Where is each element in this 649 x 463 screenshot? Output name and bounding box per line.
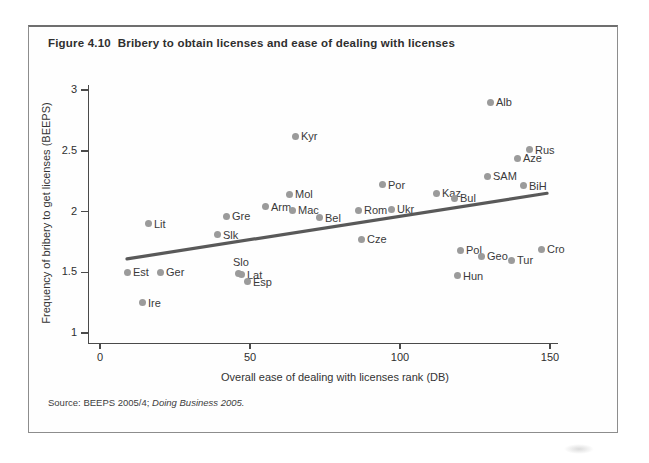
data-point-Kyr xyxy=(292,133,299,140)
data-point-Kaz xyxy=(433,190,440,197)
data-label-Cro: Cro xyxy=(547,242,565,256)
data-label-Ger: Ger xyxy=(166,265,184,279)
source-note: Source: BEEPS 2005/4; Doing Business 200… xyxy=(48,397,244,408)
data-label-Rom: Rom xyxy=(364,203,387,217)
data-point-Cze xyxy=(358,236,365,243)
data-point-Bul xyxy=(451,195,458,202)
data-point-Arm xyxy=(262,203,269,210)
data-label-Gre: Gre xyxy=(232,209,250,223)
data-point-Alb xyxy=(487,99,494,106)
data-label-Slk: Slk xyxy=(223,228,238,242)
data-point-Tur xyxy=(508,257,515,264)
data-label-Geo: Geo xyxy=(487,249,508,263)
data-point-SAM xyxy=(484,173,491,180)
data-label-Esp: Esp xyxy=(253,275,272,289)
data-label-Cze: Cze xyxy=(367,232,387,246)
data-point-Slk xyxy=(214,231,221,238)
data-point-Ger xyxy=(157,269,164,276)
data-label-Bel: Bel xyxy=(325,211,341,225)
data-label-Bul: Bul xyxy=(460,191,476,205)
x-axis-title: Overall ease of dealing with licenses ra… xyxy=(175,371,495,383)
figure-page: Figure 4.10 Bribery to obtain licenses a… xyxy=(0,0,649,463)
data-point-Hun xyxy=(454,272,461,279)
data-point-Cro xyxy=(538,246,545,253)
data-point-Lat xyxy=(238,271,245,278)
data-label-Alb: Alb xyxy=(496,95,512,109)
data-point-Est xyxy=(124,269,131,276)
data-point-Aze xyxy=(514,155,521,162)
data-point-Mol xyxy=(286,191,293,198)
data-label-BiH: BiH xyxy=(529,179,547,193)
data-point-Ukr xyxy=(388,206,395,213)
data-label-Rus: Rus xyxy=(535,143,555,157)
data-label-Mol: Mol xyxy=(295,187,313,201)
data-point-Geo xyxy=(478,253,485,260)
data-point-Ire xyxy=(139,299,146,306)
data-point-Rom xyxy=(355,207,362,214)
source-italic-text: Doing Business 2005. xyxy=(152,397,244,408)
data-point-Rus xyxy=(526,146,533,153)
data-label-Tur: Tur xyxy=(517,253,533,267)
data-point-Lit xyxy=(145,220,152,227)
data-label-Est: Est xyxy=(133,265,149,279)
scan-artifact xyxy=(564,444,594,454)
data-point-Mac xyxy=(289,207,296,214)
data-label-Hun: Hun xyxy=(463,269,483,283)
data-point-Bel xyxy=(316,214,323,221)
data-label-Ire: Ire xyxy=(148,296,161,310)
data-label-Por: Por xyxy=(388,178,405,192)
trend-line xyxy=(0,0,649,463)
data-point-Gre xyxy=(223,213,230,220)
data-label-Lit: Lit xyxy=(154,217,166,231)
data-label-Arm: Arm xyxy=(271,200,291,214)
data-point-Por xyxy=(379,181,386,188)
source-text: Source: BEEPS 2005/4; xyxy=(48,397,152,408)
data-point-Pol xyxy=(457,247,464,254)
data-label-Kyr: Kyr xyxy=(301,129,318,143)
data-label-SAM: SAM xyxy=(493,169,517,183)
data-label-Ukr: Ukr xyxy=(397,202,414,216)
